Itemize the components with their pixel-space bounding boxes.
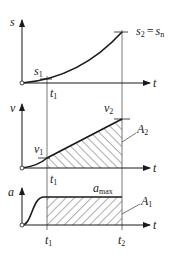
t2-label: t2 <box>118 233 125 248</box>
v-axis-label: v <box>10 101 16 115</box>
t-label: t <box>153 161 157 175</box>
origin-marker <box>20 166 24 170</box>
amax-label: amax <box>93 181 113 196</box>
origin-marker <box>20 81 24 85</box>
A1-label: A1 <box>140 194 152 209</box>
s-axis-label: s <box>10 15 15 29</box>
kinematics-diagram: s t s1 s2=sn t1 v t v1 v2 A2 t1 a t amax… <box>0 0 172 259</box>
t1-label-lower: t1 <box>45 233 52 248</box>
t-label: t <box>153 76 157 90</box>
v2-label: v2 <box>104 101 113 116</box>
t1-label-middle: t1 <box>50 172 57 187</box>
v1-label: v1 <box>34 142 43 157</box>
displacement-panel: s t s1 s2=sn t1 <box>10 15 164 101</box>
A1-leader <box>122 204 140 214</box>
A2-hatched-area <box>47 119 122 168</box>
A2-label: A2 <box>136 122 148 137</box>
acceleration-panel: a t amax A1 t1 t2 <box>8 181 157 248</box>
A1-hatched-area <box>47 197 122 225</box>
t1-label-upper: t1 <box>50 86 57 101</box>
t-label: t <box>153 218 157 232</box>
s1-label: s1 <box>34 64 43 79</box>
origin-marker <box>20 223 24 227</box>
A2-leader <box>122 133 136 142</box>
a-axis-label: a <box>8 185 14 199</box>
velocity-panel: v t v1 v2 A2 t1 <box>10 101 157 187</box>
s2-eq-sn-label: s2=sn <box>136 24 164 39</box>
